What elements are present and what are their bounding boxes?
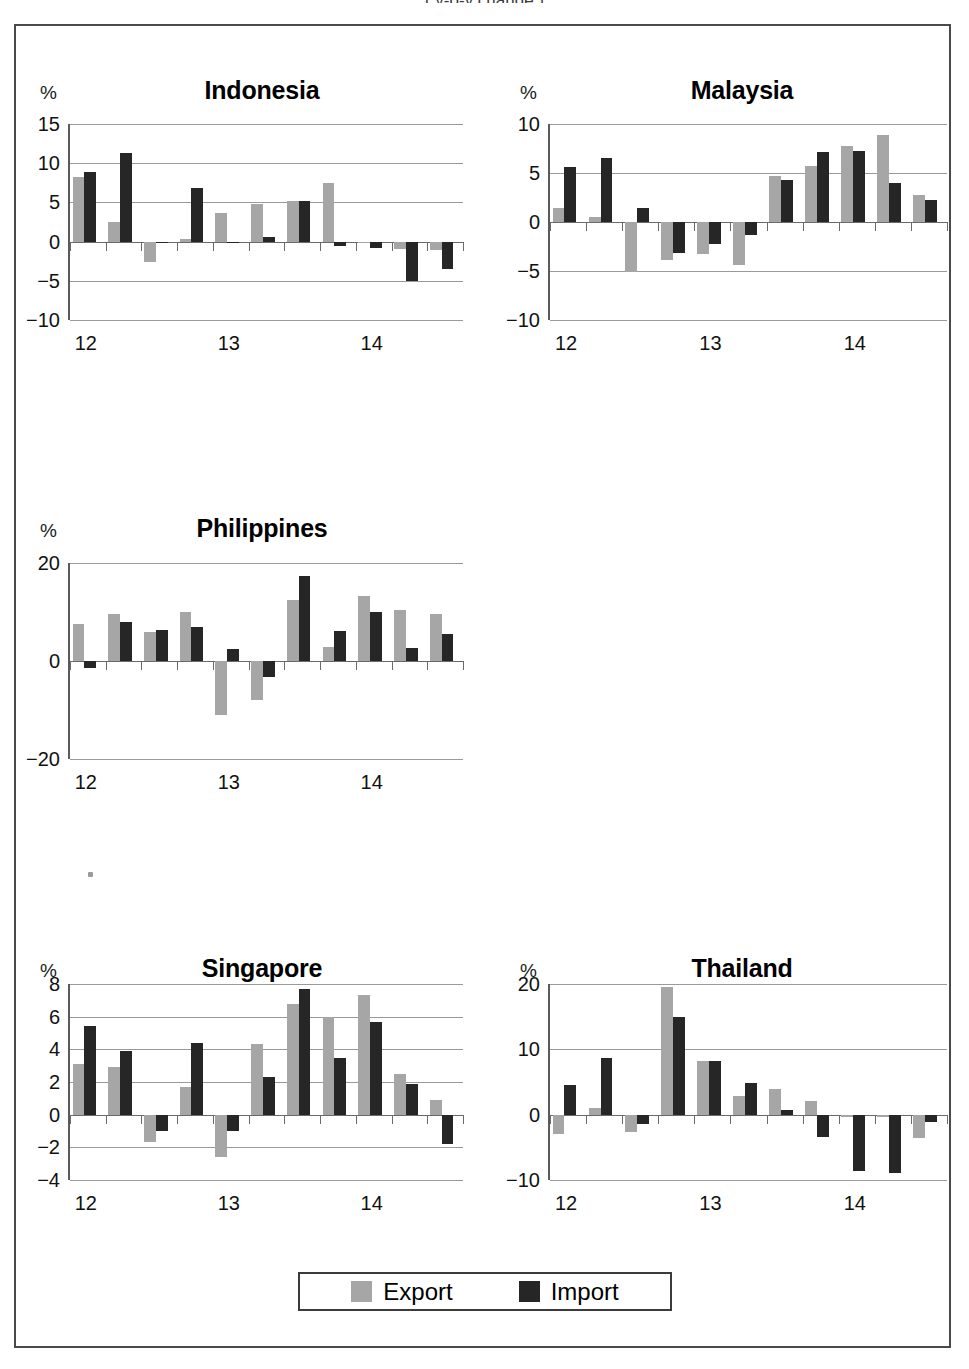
legend-label-import: Import <box>551 1278 619 1306</box>
x-tick <box>730 1115 731 1124</box>
plot-area <box>548 984 945 1180</box>
bar-import <box>817 1115 829 1137</box>
bar-import <box>673 1017 685 1115</box>
import-swatch-icon <box>519 1281 540 1302</box>
x-tick <box>803 1115 804 1124</box>
bar-import <box>889 1115 901 1173</box>
x-tick <box>658 1115 659 1124</box>
bar-import <box>745 1083 757 1114</box>
legend-item-import: Import <box>519 1278 619 1306</box>
y-tick-label: 0 <box>486 1103 540 1126</box>
x-tick-label: 13 <box>699 1192 721 1215</box>
y-tick-label: 10 <box>486 1038 540 1061</box>
bar-import <box>853 1115 865 1171</box>
x-tick <box>586 1115 587 1124</box>
bar-export <box>625 1115 637 1133</box>
bar-export <box>697 1061 709 1115</box>
bar-export <box>913 1115 925 1139</box>
export-swatch-icon <box>351 1281 372 1302</box>
bar-import <box>781 1110 793 1115</box>
x-tick <box>911 1115 912 1124</box>
x-tick-label: 12 <box>555 1192 577 1215</box>
bar-export <box>661 987 673 1114</box>
x-tick-label: 14 <box>844 1192 866 1215</box>
y-tick-label: −10 <box>486 1169 540 1192</box>
x-tick <box>875 1115 876 1124</box>
bar-export <box>589 1108 601 1115</box>
x-tick <box>622 1115 623 1124</box>
x-tick <box>947 1115 948 1124</box>
chart-title: Thailand <box>691 954 792 983</box>
gridline <box>550 1049 947 1050</box>
bar-export <box>805 1101 817 1115</box>
x-tick <box>550 1115 551 1124</box>
x-tick <box>839 1115 840 1124</box>
bar-export <box>841 1115 853 1117</box>
bar-import <box>925 1115 937 1123</box>
bar-import <box>564 1085 576 1114</box>
x-tick <box>694 1115 695 1124</box>
chart-panel-thailand: %Thailand20100−10121314 <box>0 0 969 1369</box>
bar-export <box>877 1115 889 1118</box>
gridline <box>550 984 947 985</box>
bar-export <box>553 1115 565 1135</box>
bar-import <box>709 1061 721 1115</box>
legend-label-export: Export <box>383 1278 452 1306</box>
bar-import <box>637 1115 649 1125</box>
y-tick-label: 20 <box>486 973 540 996</box>
chart-legend: Export Import <box>298 1272 672 1311</box>
bar-import <box>601 1058 613 1114</box>
x-tick <box>767 1115 768 1124</box>
legend-item-export: Export <box>351 1278 452 1306</box>
bar-export <box>769 1089 781 1115</box>
bar-export <box>733 1096 745 1114</box>
axis-baseline <box>550 1180 947 1181</box>
